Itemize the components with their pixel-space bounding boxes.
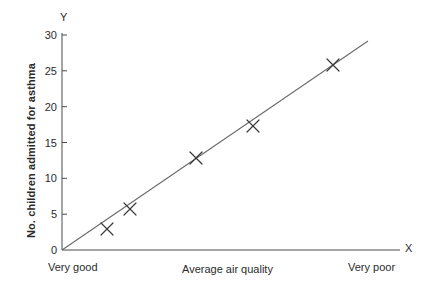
data-point-3 — [190, 152, 202, 164]
plot-area — [0, 0, 425, 291]
y-axis-title: No. children admitted for asthma — [26, 63, 37, 238]
x-category-label-very-poor: Very poor — [348, 262, 395, 273]
x-category-label-very-good: Very good — [48, 262, 98, 273]
y-tick-marks — [62, 35, 67, 214]
y-tick-label-30: 30 — [31, 30, 57, 41]
data-point-4 — [247, 120, 259, 132]
y-tick-label-0: 0 — [31, 245, 57, 256]
trend-line — [62, 41, 368, 250]
data-point-1 — [101, 223, 113, 235]
scatter-chart: Y X 30 25 20 15 10 5 0 No. children admi… — [0, 0, 425, 291]
data-point-5 — [327, 59, 339, 71]
data-point-2 — [124, 203, 136, 215]
y-axis-letter: Y — [60, 12, 67, 23]
x-axis-letter: X — [405, 243, 412, 254]
x-axis-title: Average air quality — [182, 264, 273, 275]
